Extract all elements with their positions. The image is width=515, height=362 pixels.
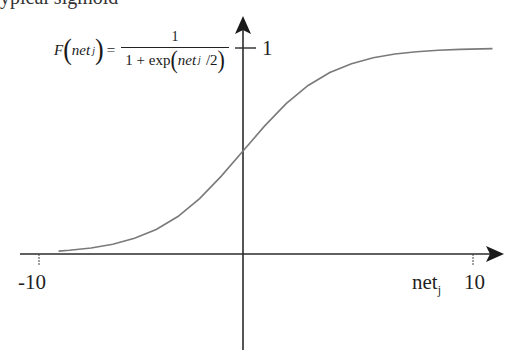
formula-den-arg: net: [178, 51, 196, 69]
formula-label: F ( net j ) = 1 1 + exp ( net j /2 ): [54, 30, 229, 70]
x-tick-label-10: 10: [464, 270, 485, 295]
formula-fraction: 1 1 + exp ( net j /2 ): [121, 29, 229, 71]
formula-den-paren-open: (: [170, 48, 177, 72]
y-tick-label-1: 1: [262, 36, 273, 61]
formula-numerator: 1: [172, 29, 179, 47]
formula-equals: =: [107, 42, 115, 59]
formula-denominator: 1 + exp ( net j /2 ): [125, 48, 225, 71]
sigmoid-curve: [59, 49, 493, 252]
formula-den-prefix: 1 + exp: [125, 51, 170, 69]
x-tick-label-minus10: -10: [18, 270, 46, 295]
formula-paren-open: (: [63, 36, 72, 65]
formula-func: F: [54, 42, 63, 59]
x-axis-label-text: net: [412, 270, 438, 294]
x-axis-label: netj: [412, 270, 441, 298]
formula-paren-close: ): [95, 36, 104, 65]
formula-den-sub: j: [198, 51, 201, 69]
formula-den-paren-close: ): [218, 48, 225, 72]
x-axis-label-sub: j: [438, 283, 441, 297]
formula-den-suffix: /2: [206, 51, 218, 69]
clipped-caption: ypical sigmoid: [0, 0, 118, 9]
formula-arg: net: [72, 42, 90, 59]
